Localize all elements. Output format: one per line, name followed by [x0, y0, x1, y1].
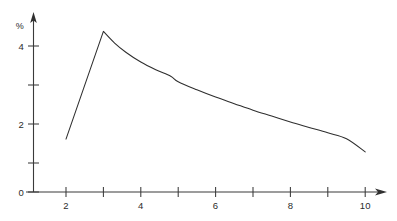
x-tick-label-10: 10 — [360, 200, 371, 211]
x-tick-label-8: 8 — [288, 200, 293, 211]
y-tick-label-2: 2 — [19, 119, 24, 130]
y-axis-title: % — [16, 21, 24, 31]
y-tick-label-0: 0 — [19, 187, 24, 198]
x-tick-label-2: 2 — [63, 200, 68, 211]
chart-background — [0, 0, 397, 221]
chart-container: 4 2 0 % 2 4 6 8 10 — [0, 0, 397, 221]
y-tick-label-4: 4 — [19, 41, 24, 52]
x-tick-label-6: 6 — [213, 200, 218, 211]
x-tick-label-4: 4 — [138, 200, 143, 211]
percentage-line-chart: 4 2 0 % 2 4 6 8 10 — [0, 0, 397, 221]
